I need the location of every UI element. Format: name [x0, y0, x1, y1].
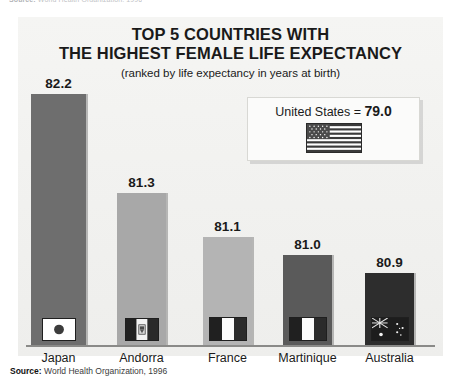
japan-flag-icon [42, 318, 76, 341]
country-label-japan: Japan [41, 351, 75, 365]
plot-area: 82.2 Japan 81.3 [18, 17, 443, 356]
country-label-france: France [208, 351, 247, 365]
bar-value-australia: 80.9 [376, 255, 402, 270]
country-label-andorra: Andorra [119, 351, 163, 365]
axis-baseline [26, 345, 435, 347]
france-flag-icon [209, 317, 247, 341]
andorra-flag-icon [125, 318, 159, 341]
bar-value-martinique: 81.0 [294, 237, 320, 252]
bottom-source-note: Source: World Health Organization, 1996 [10, 366, 167, 376]
bar-group-martinique: 81.0 Martinique [283, 255, 332, 345]
martinique-flag-icon [289, 317, 327, 341]
country-label-martinique: Martinique [278, 351, 336, 365]
bar-value-france: 81.1 [214, 219, 240, 234]
bar-japan[interactable] [31, 94, 86, 345]
bar-value-andorra: 81.3 [128, 175, 154, 190]
bottom-source-text: World Health Organization, 1996 [44, 366, 167, 376]
bar-group-andorra: 81.3 Andorra [117, 193, 166, 345]
chart-panel: TOP 5 COUNTRIES WITH THE HIGHEST FEMALE … [18, 17, 443, 356]
australia-flag-icon [371, 317, 409, 341]
top-source-note: Source: World Health Organization, 1996 [9, 0, 142, 2]
top-source-text: World Health Organization, 1996 [38, 0, 143, 2]
country-label-australia: Australia [365, 351, 414, 365]
bar-group-japan: 82.2 Japan [31, 94, 86, 345]
bar-group-australia: 80.9 [365, 273, 414, 345]
top-source-prefix: Source: [9, 0, 36, 2]
bar-group-france: 81.1 France [203, 237, 252, 345]
bar-value-japan: 82.2 [45, 76, 71, 91]
bottom-source-prefix: Source: [10, 366, 42, 376]
